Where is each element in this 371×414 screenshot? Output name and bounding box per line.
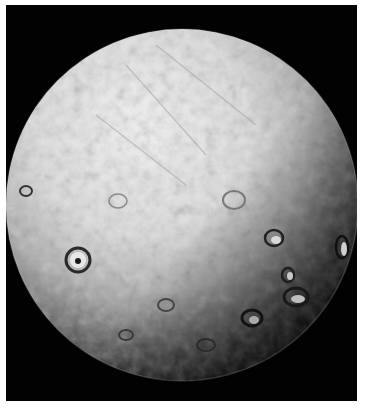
moon-disc-graphic [6, 5, 357, 401]
moon-photo [6, 5, 357, 401]
